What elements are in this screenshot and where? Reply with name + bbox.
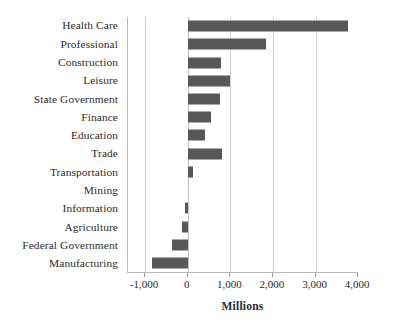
bar (188, 57, 221, 68)
category-label: Manufacturing (0, 255, 123, 273)
tick-label: 1,000 (217, 278, 242, 290)
bar-row (128, 72, 358, 90)
bar-row (128, 145, 358, 163)
bar-row (128, 236, 358, 254)
bar-chart: Health CareProfessionalConstructionLeisu… (0, 0, 398, 334)
tick-label: -1,000 (130, 278, 158, 290)
tick-mark (229, 273, 230, 277)
bar-series (128, 17, 358, 272)
tick-label: 0 (184, 278, 190, 290)
bar (185, 203, 188, 214)
tick-mark (315, 273, 316, 277)
category-label: Health Care (0, 17, 123, 35)
category-label: Mining (0, 182, 123, 200)
bar-row (128, 53, 358, 71)
bar (182, 221, 188, 232)
bar-row (128, 199, 358, 217)
bar-row (128, 217, 358, 235)
tick-label: 2,000 (260, 278, 285, 290)
category-label: Information (0, 200, 123, 218)
bar-row (128, 163, 358, 181)
tick-mark (187, 273, 188, 277)
bar-row (128, 17, 358, 35)
category-axis-labels: Health CareProfessionalConstructionLeisu… (0, 17, 123, 273)
bar (188, 148, 222, 159)
bar (188, 75, 230, 86)
bar-row (128, 90, 358, 108)
bar (152, 257, 187, 268)
bar (188, 21, 349, 32)
bar (188, 166, 193, 177)
bar (188, 130, 206, 141)
category-label: Federal Government (0, 236, 123, 254)
category-label: Trade (0, 145, 123, 163)
category-label: Finance (0, 108, 123, 126)
tick-mark (357, 273, 358, 277)
bar-row (128, 108, 358, 126)
bar (188, 39, 266, 50)
category-label: Construction (0, 54, 123, 72)
bar (172, 239, 188, 250)
value-axis-title: Millions (127, 300, 358, 312)
bar-row (128, 181, 358, 199)
bar-row (128, 254, 358, 272)
tick-mark (272, 273, 273, 277)
bar-row (128, 126, 358, 144)
bar-row (128, 35, 358, 53)
category-label: State Government (0, 90, 123, 108)
clipped-title-remnant (10, 0, 390, 4)
plot-area (127, 17, 358, 273)
category-label: Education (0, 127, 123, 145)
category-label: Professional (0, 35, 123, 53)
bar (188, 112, 211, 123)
tick-label: 3,000 (302, 278, 327, 290)
category-label: Leisure (0, 72, 123, 90)
category-label: Agriculture (0, 218, 123, 236)
bar (188, 93, 220, 104)
tick-mark (144, 273, 145, 277)
category-label: Transportation (0, 163, 123, 181)
value-axis-tick-labels: -1,00001,0002,0003,0004,000 (127, 278, 358, 294)
tick-label: 4,000 (345, 278, 370, 290)
